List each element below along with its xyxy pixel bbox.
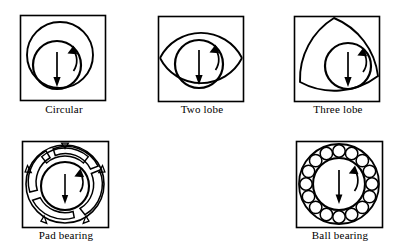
- ball: [320, 147, 332, 159]
- ball: [309, 201, 321, 213]
- ball: [345, 147, 357, 159]
- load-arrow: [53, 52, 60, 87]
- rotation-arrow: [349, 166, 359, 192]
- ball: [302, 190, 314, 202]
- ball: [320, 208, 332, 220]
- bearing-types-figure: Circular Two lobe: [0, 0, 401, 246]
- ball: [345, 208, 357, 220]
- panel-ball-bearing: [294, 139, 386, 231]
- ball: [333, 211, 345, 223]
- ball: [302, 165, 314, 177]
- load-arrow: [195, 50, 202, 85]
- pivot: [83, 216, 89, 224]
- ball: [363, 165, 375, 177]
- panel-label-pad-bearing: Pad bearing: [20, 229, 112, 241]
- panel-label-two-lobe: Two lobe: [156, 103, 248, 115]
- pad-bearing-drawing: [20, 139, 112, 231]
- panel-two-lobe: [156, 14, 248, 106]
- pivot: [41, 216, 47, 224]
- ball: [363, 190, 375, 202]
- two-lobe-drawing: [156, 14, 248, 106]
- load-arrow: [344, 52, 351, 87]
- rotation-arrow: [74, 169, 84, 193]
- load-arrow: [336, 170, 343, 204]
- ball: [333, 145, 345, 157]
- load-arrow: [62, 174, 68, 204]
- ball-bearing-drawing: [294, 139, 386, 231]
- panel-circular: [18, 13, 110, 105]
- panel-label-circular: Circular: [18, 103, 110, 115]
- ball: [366, 178, 378, 190]
- panel-label-three-lobe: Three lobe: [292, 103, 384, 115]
- ball: [356, 154, 368, 166]
- circular-drawing: [18, 13, 110, 105]
- panel-three-lobe: [292, 14, 384, 106]
- panel-pad-bearing: [20, 139, 112, 231]
- three-lobe-drawing: [292, 14, 384, 106]
- ball: [309, 154, 321, 166]
- ball: [356, 201, 368, 213]
- panel-label-ball-bearing: Ball bearing: [294, 229, 386, 241]
- pad-segment: [33, 198, 75, 219]
- ball: [300, 178, 312, 190]
